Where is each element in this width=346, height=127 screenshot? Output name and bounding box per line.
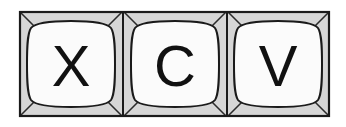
key-c-label: C: [154, 33, 196, 98]
key-cell-v[interactable]: V: [228, 12, 329, 116]
keyboard-illustration-canvas: X C V: [0, 0, 346, 127]
keyboard-shortcut-illustration: X C V: [0, 0, 346, 127]
key-v-label: V: [259, 33, 298, 98]
key-x-label: X: [52, 33, 91, 98]
key-cell-c[interactable]: C: [124, 12, 226, 116]
key-cell-x[interactable]: X: [20, 12, 122, 116]
